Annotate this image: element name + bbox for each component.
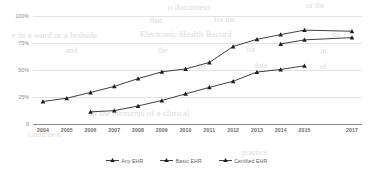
legend-marker-icon — [160, 157, 173, 164]
data-point-marker — [207, 60, 212, 64]
x-axis-tick-2009: 2009 — [156, 127, 168, 133]
legend-item-any-ehr[interactable]: Any EHR — [106, 157, 144, 164]
x-axis-tick-2017: 2017 — [346, 127, 358, 133]
x-axis-line — [33, 124, 362, 125]
legend-label: Any EHR — [121, 158, 143, 164]
plot-area: 100% 75% 50% 25% 0 — [33, 16, 362, 124]
legend-label: Basic EHR — [176, 158, 202, 164]
x-axis-tick-2004: 2004 — [37, 127, 49, 133]
y-axis-label-25: 25% — [18, 94, 29, 100]
x-axis-tick-2005: 2005 — [61, 127, 73, 133]
x-axis-tick-2011: 2011 — [204, 127, 216, 133]
y-axis-label-50: 50% — [18, 67, 29, 73]
legend-item-certified-ehr[interactable]: Certified EHR — [219, 157, 268, 164]
legend-marker-icon — [106, 157, 119, 164]
x-axis-labels: 2004200520062007200820092010201120122013… — [33, 127, 362, 139]
x-axis-tick-2013: 2013 — [251, 127, 263, 133]
ghost-text: of the — [306, 1, 324, 10]
x-axis-tick-2010: 2010 — [180, 127, 192, 133]
ghost-text: o document — [168, 2, 210, 12]
series-line-basic-ehr — [91, 66, 305, 112]
ghost-text: practice — [242, 148, 267, 157]
x-axis-tick-2014: 2014 — [275, 127, 287, 133]
y-axis-label-75: 75% — [18, 40, 29, 46]
legend-marker-icon — [219, 157, 232, 164]
x-axis-tick-2006: 2006 — [85, 127, 97, 133]
x-axis-tick-2015: 2015 — [298, 127, 310, 133]
legend-label: Certified EHR — [234, 158, 267, 164]
x-axis-tick-2007: 2007 — [108, 127, 120, 133]
series-line-certified-ehr — [281, 38, 352, 44]
x-axis-tick-2012: 2012 — [227, 127, 239, 133]
x-axis-tick-2008: 2008 — [132, 127, 144, 133]
data-series-layer — [33, 16, 362, 124]
ehr-adoption-line-chart: o documentof thethatfor thee in a ward o… — [0, 0, 373, 173]
y-axis-label-100: 100% — [15, 13, 29, 19]
legend-item-basic-ehr[interactable]: Basic EHR — [160, 157, 201, 164]
chart-legend: Any EHRBasic EHRCertified EHR — [0, 157, 373, 164]
y-axis-label-0: 0 — [26, 121, 29, 127]
